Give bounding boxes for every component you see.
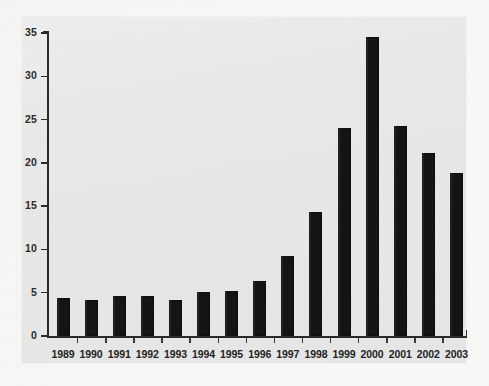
x-axis-minor-tick [302,338,303,344]
bar [197,292,210,336]
bar [85,300,98,336]
y-axis-tick [41,32,48,33]
y-axis-tick [41,162,48,163]
x-axis-minor-tick [442,338,443,344]
y-axis-tick [41,205,48,206]
bar-chart-figure: 05101520253035 1989199019911992199319941… [0,0,489,386]
bar-edge-highlight [141,296,143,336]
bar [450,173,463,336]
x-axis-minor-tick [133,338,134,344]
bar-edge-highlight [253,281,255,336]
bar [253,281,266,336]
bar-edge-highlight [281,256,283,336]
bar-edge-highlight [366,37,368,336]
y-axis-tick [41,335,48,336]
x-axis-minor-tick [386,338,387,344]
bar [338,128,351,336]
bar [113,296,126,336]
bar-edge-highlight [422,153,424,336]
bar-edge-highlight [338,128,340,336]
bar [309,212,322,336]
y-axis-tick-label: 0 [19,329,37,341]
x-axis-minor-tick [246,338,247,344]
y-axis-tick-label: 15 [19,199,37,211]
y-axis-tick-label: 25 [19,113,37,125]
bar-edge-highlight [85,300,87,336]
bar-edge-highlight [309,212,311,336]
bar [141,296,154,336]
x-axis-minor-tick [189,338,190,344]
y-axis-tick-label: 20 [19,156,37,168]
x-axis-minor-tick [105,338,106,344]
x-axis-tick-label: 2003 [439,348,473,360]
x-axis-minor-tick [77,338,78,344]
y-axis-tick-label: 10 [19,242,37,254]
x-axis-minor-tick [358,338,359,344]
x-axis-minor-tick [274,338,275,344]
x-axis-line [47,336,467,338]
x-axis-minor-tick [218,338,219,344]
x-axis-minor-tick [414,338,415,344]
bar [281,256,294,336]
bar-edge-highlight [57,298,59,336]
y-axis-tick [41,292,48,293]
bar [394,126,407,336]
bar [169,300,182,336]
x-axis-minor-tick [161,338,162,344]
bar-edge-highlight [169,300,171,336]
bar [57,298,70,336]
bar-edge-highlight [450,173,452,336]
y-axis-tick-label: 5 [19,286,37,298]
y-axis-tick [41,249,48,250]
y-axis-tick-label: 35 [19,26,37,38]
plot-panel: 05101520253035 1989199019911992199319941… [22,17,466,363]
y-axis-tick [41,119,48,120]
bar-edge-highlight [225,291,227,336]
bar [225,291,238,336]
bar [422,153,435,336]
x-axis-minor-tick [330,338,331,344]
bar-edge-highlight [394,126,396,336]
bar-edge-highlight [197,292,199,336]
x-axis-right-cap [466,330,468,337]
y-axis-tick-label: 30 [19,69,37,81]
y-axis-tick [41,76,48,77]
bar [366,37,379,336]
bar-edge-highlight [113,296,115,336]
